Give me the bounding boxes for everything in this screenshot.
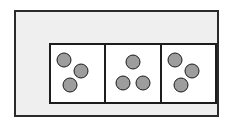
dot-top-left	[57, 53, 72, 68]
dot-bottom-left	[63, 77, 78, 92]
panel-left	[51, 45, 104, 102]
panel-row	[49, 43, 217, 104]
dot-bottom-left	[173, 77, 188, 92]
panel-center	[104, 45, 159, 102]
dot-middle-right	[185, 63, 200, 78]
panel-right	[160, 45, 215, 102]
outer-frame	[14, 10, 219, 117]
dot-bottom-left	[115, 76, 130, 91]
dot-bottom-right	[136, 76, 151, 91]
dot-middle-right	[74, 63, 89, 78]
diagram-canvas	[0, 0, 233, 127]
dot-top-left	[167, 53, 182, 68]
dot-top-center	[125, 55, 140, 70]
